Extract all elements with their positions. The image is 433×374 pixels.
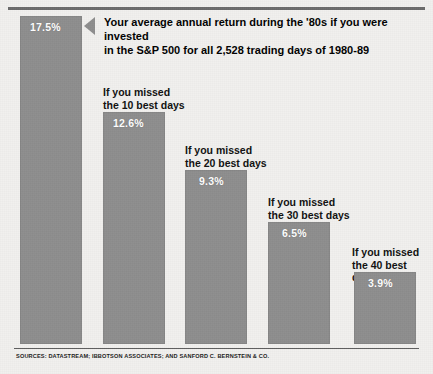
bar-value-label-3: 9.3% (199, 175, 224, 187)
bar-missed-10-best-days (103, 112, 165, 344)
chart-figure: 17.5% Your average annual return during … (0, 0, 433, 374)
bar-value-label-2: 12.6% (113, 117, 144, 129)
headline-line-1: Your average annual return during the '8… (104, 15, 416, 43)
bar-value-label-5: 3.9% (368, 277, 393, 289)
source-note: SOURCES: DATASTREAM; IBBOTSON ASSOCIATES… (16, 353, 269, 359)
bar-missed-20-best-days (185, 170, 247, 344)
bottom-divider-rule (14, 348, 419, 349)
callout-pointer-icon (84, 17, 95, 35)
bar-missed-30-best-days (268, 222, 330, 344)
top-divider-rule (8, 7, 425, 10)
bar-value-label-1: 17.5% (30, 21, 61, 33)
chart-headline: Your average annual return during the '8… (104, 15, 416, 57)
bar-caption-2: If you missed the 10 best days (103, 86, 185, 111)
headline-line-2: in the S&P 500 for all 2,528 trading day… (104, 43, 416, 57)
bar-caption-3: If you missed the 20 best days (185, 144, 267, 169)
bar-caption-4: If you missed the 30 best days (268, 196, 350, 221)
bar-all-trading-days (20, 16, 82, 344)
bar-value-label-4: 6.5% (282, 227, 307, 239)
